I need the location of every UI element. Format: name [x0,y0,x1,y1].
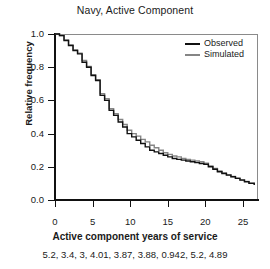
legend-label-observed: Observed [204,38,243,49]
chart-legend: Observed Simulated [181,36,248,63]
legend-label-simulated: Simulated [204,49,244,60]
x-axis-title: Active component years of service [0,231,270,242]
figure: Navy, Active Component 0.00.20.40.60.81.… [0,0,270,269]
legend-swatch-observed [185,43,200,45]
legend-item-observed: Observed [185,38,244,49]
figure-caption: 5.2, 3.4, 3, 4.01, 3.87, 3.88, 0.942, 5.… [0,249,270,260]
y-axis-title: Relative frequency [23,9,34,159]
legend-swatch-simulated [185,54,200,56]
legend-item-simulated: Simulated [185,49,244,60]
